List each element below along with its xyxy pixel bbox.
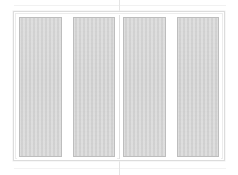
frame-edge-right [222, 13, 223, 159]
glass-panel-4-label: Panel 4 [178, 18, 179, 19]
construction-line-top [14, 5, 226, 6]
panel-divider-left [64, 15, 71, 159]
sash-left: Panel 1 Panel 2 [17, 15, 117, 159]
glass-panel-1: Panel 1 [19, 17, 62, 157]
glass-panel-4: Panel 4 [177, 17, 220, 157]
frame-edge-top [15, 13, 223, 14]
glass-panel-3-label: Panel 3 [124, 18, 125, 19]
drawing-canvas: Panel 1 Panel 2 Panel 3 Panel 4 Sliding … [0, 0, 238, 175]
glass-panel-2: Panel 2 [73, 17, 116, 157]
glass-panel-2-label: Panel 2 [74, 18, 75, 19]
drawing-title: Sliding Window Unit Elevation [0, 0, 1, 1]
glass-panel-1-label: Panel 1 [20, 18, 21, 19]
glass-panel-3: Panel 3 [123, 17, 166, 157]
sash-right: Panel 3 Panel 4 [121, 15, 221, 159]
panel-divider-right [168, 15, 175, 159]
frame-edge-left [15, 13, 16, 159]
window-outer-frame: Panel 1 Panel 2 Panel 3 Panel 4 [13, 11, 225, 161]
construction-line-bottom [14, 168, 226, 169]
